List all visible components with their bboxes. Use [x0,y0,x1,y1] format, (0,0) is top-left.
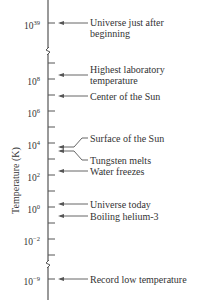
arrow-head-icon [58,214,64,218]
axis-break-icon [46,260,50,268]
event-label: Boiling helium-3 [90,211,159,222]
tick-label: 106 [0,106,40,119]
tick-label: 108 [0,74,40,87]
tick-label: 1039 [0,18,40,31]
event-label: Universe today [90,199,151,210]
arrow-head-icon [58,73,64,77]
event-label: Record low temperature [90,274,187,285]
temperature-scale-diagram: Temperature (K) 103910810610410210010−21… [0,0,202,300]
tick-label: 10−9 [0,274,40,287]
event-label: Center of the Sun [90,91,160,102]
arrow-head-icon [58,202,64,206]
event-label: Surface of the Sun [90,133,164,144]
axis-break-icon [46,47,50,55]
arrow-head-icon [58,145,64,149]
arrow-head-icon [58,169,64,173]
arrow-head-icon [58,277,64,281]
tick-label: 102 [0,170,40,183]
tick-label: 10−2 [0,234,40,247]
leader-line [60,151,88,160]
event-label: Water freezes [90,166,144,177]
tick-label: 100 [0,202,40,215]
event-label: Tungsten melts [90,155,151,166]
arrow-head-icon [58,21,64,25]
event-label: Universe just afterbeginning [90,17,164,39]
arrow-head-icon [58,149,64,153]
arrow-head-icon [58,94,64,98]
leader-line [60,138,88,147]
tick-label: 104 [0,138,40,151]
event-label: Highest laboratorytemperature [90,64,165,86]
